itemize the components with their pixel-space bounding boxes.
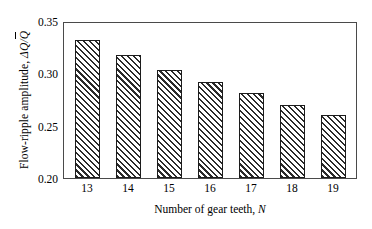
x-axis-title-symbol: N bbox=[258, 203, 266, 215]
bar-15 bbox=[157, 70, 182, 179]
y-axis-q-bar: Q bbox=[16, 31, 32, 39]
plot-area bbox=[63, 22, 357, 179]
x-tick-label-5: 18 bbox=[272, 182, 312, 194]
x-tick-label-0: 13 bbox=[67, 182, 107, 194]
y-tick-label-2: 0.30 bbox=[12, 69, 58, 81]
bar-chart-figure: Flow-ripple amplitude, ΔQ/Q 0.20 0.25 0.… bbox=[0, 0, 372, 229]
x-axis-title-text: Number of gear teeth, bbox=[154, 203, 258, 215]
x-axis-title: Number of gear teeth, N bbox=[63, 203, 357, 216]
x-tick-label-2: 15 bbox=[149, 182, 189, 194]
x-tick-label-1: 14 bbox=[108, 182, 148, 194]
bar-17 bbox=[239, 93, 264, 178]
x-tick-label-3: 16 bbox=[190, 182, 230, 194]
bar-13 bbox=[75, 40, 100, 178]
y-axis-title: Flow-ripple amplitude, ΔQ/Q bbox=[16, 10, 32, 190]
x-tick-label-6: 19 bbox=[313, 182, 353, 194]
y-tick-label-0: 0.20 bbox=[12, 174, 58, 186]
bar-14 bbox=[116, 55, 141, 178]
x-tick-label-4: 17 bbox=[231, 182, 271, 194]
bar-19 bbox=[321, 115, 346, 178]
bar-16 bbox=[198, 82, 223, 178]
y-axis-delta-q: ΔQ bbox=[18, 43, 30, 58]
y-axis-slash: / bbox=[18, 39, 30, 42]
bar-18 bbox=[280, 105, 305, 178]
y-tick-label-1: 0.25 bbox=[12, 121, 58, 133]
y-tick-label-3: 0.35 bbox=[12, 17, 58, 29]
